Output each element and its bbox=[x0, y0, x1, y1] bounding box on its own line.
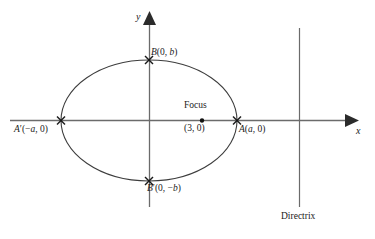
focus-coordinates-label: (3, 0) bbox=[184, 124, 205, 134]
vertex-b-label: B(0, b) bbox=[151, 48, 177, 58]
ellipse-focus-directrix-figure: y x B(0, b) B′(0, −b) A′(−a, 0) A(a, 0) … bbox=[0, 0, 375, 239]
vertex-a-label: A(a, 0) bbox=[239, 125, 265, 135]
x-axis-label: x bbox=[356, 126, 360, 136]
directrix-label: Directrix bbox=[281, 212, 315, 222]
vertex-b-prime-label: B′(0, −b) bbox=[147, 184, 181, 194]
vertex-a-prime-label: A′(−a, 0) bbox=[14, 125, 48, 135]
focus-label: Focus bbox=[184, 101, 207, 111]
y-axis-label: y bbox=[136, 12, 140, 22]
figure-canvas bbox=[0, 0, 375, 239]
y-axis-arrowhead bbox=[143, 11, 156, 25]
